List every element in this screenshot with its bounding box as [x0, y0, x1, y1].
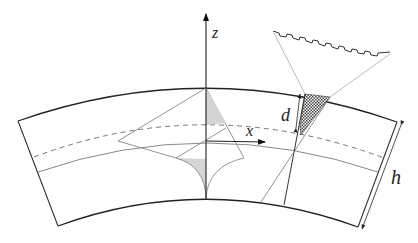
depth-label: d	[281, 105, 291, 125]
shell-left-edge	[18, 121, 58, 226]
ray-left	[274, 33, 305, 94]
section-line-slanted	[261, 97, 330, 202]
shell-inner-surface	[58, 199, 358, 227]
x-axis	[206, 141, 265, 142]
ray-right	[330, 54, 390, 97]
shaded-upper-region	[206, 88, 226, 125]
hatched-depth-region	[300, 94, 330, 135]
periodic-surface-profile	[273, 31, 390, 56]
thickness-label: h	[391, 166, 401, 188]
x-axis-label: x	[245, 122, 253, 139]
shell-diagram: z x d h	[0, 0, 418, 243]
cusp-right-curve	[206, 158, 244, 198]
solid-reference-surface	[38, 143, 378, 172]
z-axis-label: z	[211, 24, 219, 41]
